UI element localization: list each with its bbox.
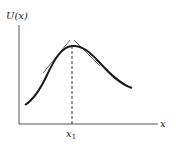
x-axis-label: x	[160, 118, 166, 129]
right-tangent-line	[74, 40, 100, 66]
x1-marker-label: x1	[66, 128, 76, 141]
potential-energy-diagram: U(x) x x1	[0, 0, 179, 147]
x1-label-subscript: 1	[72, 133, 76, 141]
potential-curve	[25, 46, 132, 105]
y-axis-label: U(x)	[6, 10, 28, 21]
